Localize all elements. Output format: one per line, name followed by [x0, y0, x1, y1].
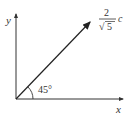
vector-diagram: y x 45° 2 √ 5 c: [0, 0, 130, 119]
vector-arrow: [16, 22, 90, 99]
y-axis-label: y: [5, 14, 11, 26]
label-numerator: 2: [104, 7, 109, 18]
angle-arc: [28, 87, 33, 99]
vector-label: 2 √ 5 c: [99, 7, 123, 32]
x-axis-label: x: [115, 103, 121, 115]
radical-sign: √: [99, 21, 105, 32]
label-denominator: 5: [107, 21, 112, 32]
label-suffix: c: [118, 13, 123, 24]
angle-label: 45°: [38, 84, 52, 95]
